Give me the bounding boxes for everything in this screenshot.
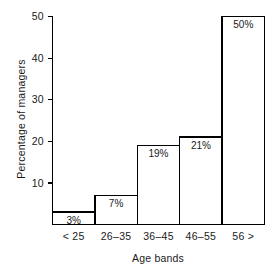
bar-value-label: 19% bbox=[148, 148, 168, 159]
bar bbox=[222, 17, 264, 225]
bar-value-label: 7% bbox=[109, 198, 124, 209]
x-axis-title: Age bands bbox=[52, 252, 264, 264]
y-tick-label: 40 bbox=[32, 52, 44, 64]
x-axis-category-label: 56 > bbox=[232, 230, 254, 242]
y-tick-label: 30 bbox=[32, 93, 44, 105]
y-tick-label: 10 bbox=[32, 177, 44, 189]
bar-value-label: 21% bbox=[191, 140, 211, 151]
bar-value-label: 3% bbox=[66, 215, 81, 226]
x-axis-category-label: < 25 bbox=[63, 230, 85, 242]
plot-area: 5040302010 3%7%19%21%50% < 2526–3536–454… bbox=[0, 0, 274, 274]
y-tick-label: 50 bbox=[32, 10, 44, 22]
bar-chart-figure: Percentage of managers 5040302010 3%7%19… bbox=[0, 0, 274, 274]
x-axis-category-labels: < 2526–3536–4546–5556 > bbox=[63, 230, 255, 242]
x-axis-category-label: 26–35 bbox=[101, 230, 132, 242]
y-axis-ticks: 5040302010 bbox=[32, 10, 53, 188]
x-axis-category-label: 36–45 bbox=[143, 230, 174, 242]
bar-series bbox=[53, 17, 265, 225]
bar-value-label: 50% bbox=[233, 19, 253, 30]
bar-value-labels: 3%7%19%21%50% bbox=[66, 19, 253, 226]
y-tick-label: 20 bbox=[32, 135, 44, 147]
x-axis-category-label: 46–55 bbox=[186, 230, 217, 242]
